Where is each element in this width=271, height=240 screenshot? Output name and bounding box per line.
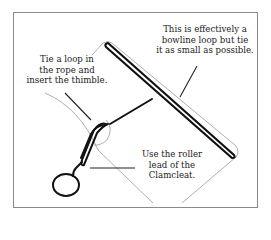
- label-bowline-loop: This is effectively a bowline loop but t…: [150, 24, 260, 56]
- label-tie-loop-thimble: Tie a loop in the rope and insert the th…: [19, 54, 115, 86]
- label-line: lead of the: [134, 160, 210, 171]
- label-line: it as small as possible.: [150, 45, 260, 56]
- label-line: the rope and: [19, 65, 115, 76]
- label-line: insert the thimble.: [19, 75, 115, 86]
- label-roller-lead: Use the roller lead of the Clamcleat.: [134, 149, 210, 181]
- rope-standing-part: [110, 99, 152, 124]
- label-line: Tie a loop in: [19, 54, 115, 65]
- label-line: Use the roller: [134, 149, 210, 160]
- bowline-loop: [105, 43, 234, 158]
- label-line: Clamcleat.: [134, 170, 210, 181]
- ring-icon: [53, 174, 79, 196]
- label-line: This is effectively a: [150, 24, 260, 35]
- label-line: bowline loop but tie: [150, 35, 260, 46]
